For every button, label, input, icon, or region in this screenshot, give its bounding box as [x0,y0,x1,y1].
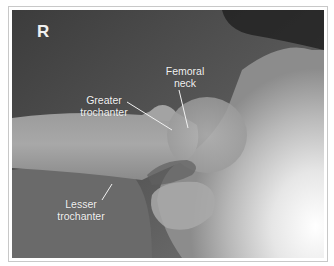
label-greater-trochanter-line2: trochanter [74,106,134,118]
label-femoral-neck-line1: Femoral [155,65,215,77]
label-femoral-neck-line2: neck [155,77,215,89]
label-lesser-trochanter-line2: trochanter [51,210,111,222]
hip-radiograph: R Femoral neck Greater trochanter Lesser… [12,10,324,258]
label-greater-trochanter-line1: Greater [74,94,134,106]
label-greater-trochanter: Greater trochanter [74,94,134,118]
label-femoral-neck: Femoral neck [155,65,215,89]
side-marker-r: R [37,23,49,41]
label-lesser-trochanter-line1: Lesser [51,198,111,210]
label-lesser-trochanter: Lesser trochanter [51,198,111,222]
